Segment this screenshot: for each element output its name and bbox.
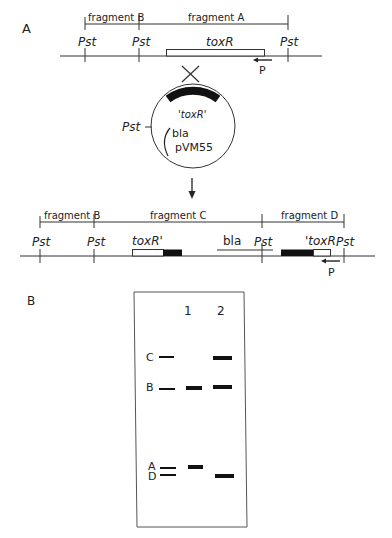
pst-site-label: Pst (78, 35, 97, 49)
pst-site-label: Pst (87, 235, 106, 249)
lane2-band-b (213, 385, 232, 389)
toxr-prime-filled-box (163, 250, 182, 257)
lane-1-label: 1 (184, 304, 192, 318)
primer-label: P (328, 266, 335, 279)
toxr-prime-open-box (133, 250, 164, 257)
marker-band-a (160, 467, 176, 469)
lane1-band-a (188, 465, 203, 469)
plasmid-insert-label: 'toxR' (178, 109, 206, 120)
marker-d-label: D (148, 470, 156, 483)
panel-a-label: A (22, 21, 31, 36)
prime-toxr-filled-box (281, 250, 313, 257)
fragment-b-label: fragment B (44, 210, 100, 221)
toxr-insert-arc (168, 91, 218, 99)
figure-canvas: A fragment B fragment A Pst Pst Pst toxR… (0, 0, 392, 538)
prime-toxr-label: 'toxR (305, 234, 336, 248)
bla-label: bla (223, 234, 241, 248)
marker-c-label: C (146, 351, 154, 364)
marker-band-b (159, 388, 175, 390)
plasmid-name-label: pVM55 (175, 141, 213, 154)
toxr-gene-box (167, 50, 265, 57)
marker-b-label: B (146, 381, 154, 394)
lane-2-label: 2 (217, 304, 225, 318)
pst-site-label: Pst (32, 235, 51, 249)
down-arrow-icon (189, 178, 196, 199)
panel-b-label: B (27, 294, 35, 308)
integrated-chromosome-map: fragment B fragment C fragment D Pst Pst… (20, 210, 375, 279)
pst-site-label: Pst (280, 35, 299, 49)
pst-site-label: Pst (254, 235, 273, 249)
prime-toxr-open-box (314, 250, 331, 257)
fragment-d-label: fragment D (281, 210, 338, 221)
plasmid-bla-label: bla (172, 127, 189, 140)
plasmid-pvm55: 'toxR' bla pVM55 Pst (122, 84, 235, 168)
plasmid-pst-label: Pst (122, 120, 141, 134)
toxr-prime-label: toxR' (132, 234, 163, 248)
lane2-band-d (215, 474, 234, 478)
primer-label: P (259, 64, 266, 77)
lane2-band-c (213, 356, 232, 360)
marker-band-d (160, 474, 176, 476)
crossover-icon (182, 66, 199, 82)
fragment-c-label: fragment C (150, 210, 206, 221)
marker-band-c (159, 356, 174, 358)
fragment-a-label: fragment A (188, 12, 244, 23)
pst-site-label: Pst (336, 235, 355, 249)
pst-site-label: Pst (132, 35, 151, 49)
fragment-b-label: fragment B (88, 12, 144, 23)
bla-arc (164, 128, 170, 156)
top-chromosome-map: fragment B fragment A Pst Pst Pst toxR P (60, 12, 322, 77)
lane1-band-b (186, 386, 202, 390)
southern-blot-gel: 1 2 C B A D (134, 292, 247, 527)
toxr-gene-label: toxR (206, 35, 234, 49)
